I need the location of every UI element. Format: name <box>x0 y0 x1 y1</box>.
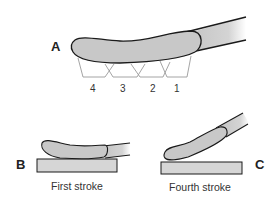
surface-c <box>161 162 242 174</box>
segment-label-2: 2 <box>150 83 156 94</box>
panel-c-brush <box>161 113 249 174</box>
surface-b <box>37 159 117 172</box>
panel-label-b: B <box>16 157 25 172</box>
caption-first-stroke: First stroke <box>51 180 103 192</box>
panel-b-brush <box>37 141 130 172</box>
caption-fourth-stroke: Fourth stroke <box>169 181 231 193</box>
panel-label-a: A <box>51 39 60 54</box>
segment-label-4: 4 <box>90 83 96 94</box>
segment-label-1: 1 <box>174 83 180 94</box>
panel-label-c: C <box>255 157 264 172</box>
segment-label-3: 3 <box>120 83 126 94</box>
panel-a-brush <box>71 17 246 77</box>
brush-stroke-diagram <box>0 0 276 204</box>
